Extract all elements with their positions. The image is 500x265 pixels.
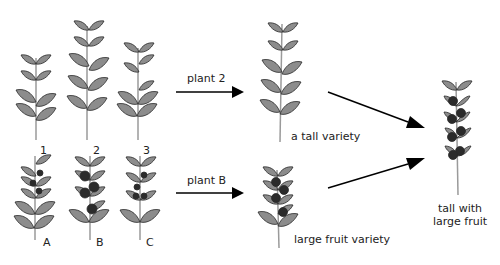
label-plant-1: 1 [40,144,47,157]
label-plant-3: 3 [143,144,150,157]
arrow-tall-to-result [328,92,425,128]
plant-2 [67,21,109,140]
plant-A [14,155,55,240]
label-tall-variety: a tall variety [291,130,360,143]
label-result-line1: tall with [425,202,495,215]
plant-B [69,156,109,240]
label-fruit-variety: large fruit variety [294,233,390,246]
plant-1 [16,55,56,140]
label-plant-C: C [146,236,154,249]
arrow-plant-2 [176,86,244,98]
label-plant-2: 2 [93,144,100,157]
label-result-line2: large fruit [425,215,495,228]
label-arrow-plant-2: plant 2 [187,72,226,85]
arrow-plant-B [176,187,244,199]
arrow-fruit-to-result [328,158,425,188]
plant-tall-variety [260,23,302,142]
label-arrow-plant-B: plant B [187,174,226,187]
plant-result [442,81,472,195]
plant-3 [117,43,158,140]
label-plant-A: A [43,236,51,249]
plant-fruit-variety [258,167,298,248]
label-plant-B: B [96,236,104,249]
plant-C [120,156,160,240]
